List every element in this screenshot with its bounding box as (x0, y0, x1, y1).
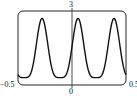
y-max-label: 3 (69, 1, 73, 9)
x-min-label: −0.5 (0, 81, 15, 89)
x-zero-label: 0 (69, 88, 73, 96)
x-max-label: 0.5 (129, 81, 137, 89)
chart-plot-area (0, 0, 137, 96)
